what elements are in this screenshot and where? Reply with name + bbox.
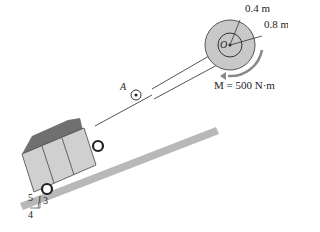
label-drum-center: O: [220, 40, 227, 50]
drum: [205, 20, 262, 70]
label-slope-run: 4: [28, 210, 33, 220]
label-inner-radius: 0.4 m: [245, 3, 270, 14]
label-moment: M = 500 N·m: [214, 80, 275, 91]
label-outer-radius: 0.8 m: [264, 19, 288, 30]
label-slope-rise: 3: [43, 196, 48, 206]
label-pulley-a: A: [120, 82, 126, 92]
label-slope-hyp: 5: [28, 193, 33, 203]
pulley-a: [131, 90, 141, 100]
